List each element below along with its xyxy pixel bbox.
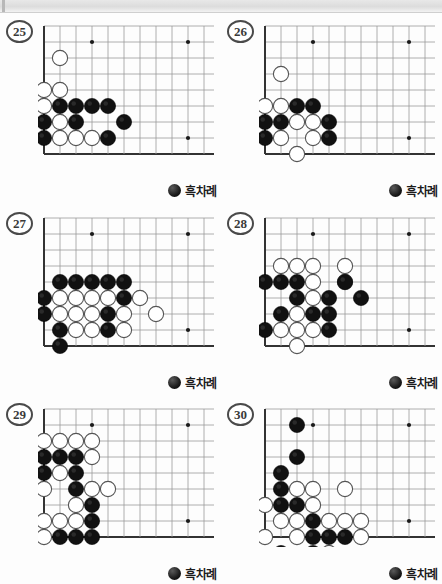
turn-label: 흑차례 <box>185 182 217 199</box>
turn-legend: 흑차례 <box>168 182 217 199</box>
black-stone-icon <box>168 184 181 197</box>
problem-number-badge: 25 <box>6 20 33 43</box>
problem-25: 25흑차례 <box>0 12 221 203</box>
problem-29: 29흑차례 <box>0 395 221 584</box>
turn-legend: 흑차례 <box>389 182 438 199</box>
turn-label: 흑차례 <box>406 565 438 582</box>
black-stone-icon <box>168 376 181 389</box>
go-board[interactable] <box>259 214 435 364</box>
problem-number-badge: 29 <box>6 403 33 426</box>
problem-26: 26흑차례 <box>221 12 442 203</box>
turn-label: 흑차례 <box>406 182 438 199</box>
turn-label: 흑차례 <box>406 374 438 391</box>
turn-label: 흑차례 <box>185 374 217 391</box>
problem-30: 30흑차례 <box>221 395 442 584</box>
turn-legend: 흑차례 <box>389 565 438 582</box>
black-stone-icon <box>389 376 402 389</box>
problems-grid: 25흑차례26흑차례27흑차례28흑차례29흑차례30흑차례 <box>0 12 442 584</box>
turn-legend: 흑차례 <box>168 565 217 582</box>
problem-27: 27흑차례 <box>0 204 221 395</box>
problem-28: 28흑차례 <box>221 204 442 395</box>
turn-legend: 흑차례 <box>168 374 217 391</box>
problem-number-badge: 26 <box>227 20 254 43</box>
go-board[interactable] <box>38 405 214 555</box>
go-board[interactable] <box>259 405 435 555</box>
black-stone-icon <box>389 567 402 580</box>
turn-legend: 흑차례 <box>389 374 438 391</box>
problem-number-badge: 30 <box>227 403 254 426</box>
go-board[interactable] <box>38 214 214 364</box>
problem-number-badge: 28 <box>227 212 254 235</box>
go-board[interactable] <box>259 22 435 172</box>
turn-label: 흑차례 <box>185 565 217 582</box>
go-board[interactable] <box>38 22 214 172</box>
problem-number-badge: 27 <box>6 212 33 235</box>
black-stone-icon <box>389 184 402 197</box>
black-stone-icon <box>168 567 181 580</box>
